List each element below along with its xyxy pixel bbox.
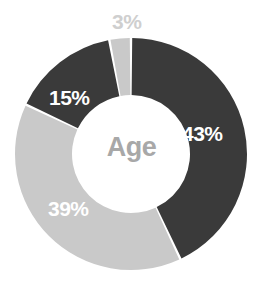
slice-label-43: 43% xyxy=(182,123,223,144)
donut-center-label: Age xyxy=(0,134,263,161)
donut-slice-39[interactable] xyxy=(15,106,179,270)
donut-chart: Age 43% 39% 15% 3% xyxy=(0,0,263,294)
slice-label-39: 39% xyxy=(48,198,89,219)
slice-label-3: 3% xyxy=(112,11,141,32)
slice-label-15: 15% xyxy=(49,87,90,108)
